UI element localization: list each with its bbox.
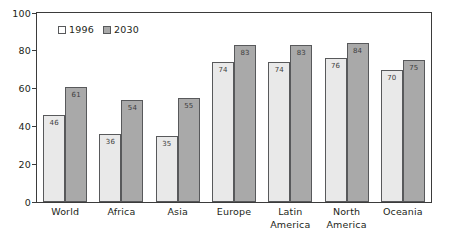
bar-value-label: 55 [179, 102, 199, 110]
bar-value-label: 83 [291, 49, 311, 57]
x-axis-label: Oceania [375, 205, 431, 218]
y-axis-tick-label: 100 [12, 8, 36, 20]
bar-value-label: 54 [122, 104, 142, 112]
legend-item-2030[interactable]: 2030 [103, 25, 139, 35]
bar-value-label: 36 [100, 138, 120, 146]
chart-legend: 19962030 [58, 25, 139, 35]
x-axis-label-line: America [262, 218, 318, 231]
x-axis-label-line: World [37, 205, 93, 218]
bar-value-label: 74 [213, 66, 233, 74]
y-axis-tick-mark [32, 13, 36, 14]
bar-1996: 46 [43, 115, 65, 202]
x-axis-label-line: Europe [206, 205, 262, 218]
bar-value-label: 76 [326, 62, 346, 70]
bar-chart: 100806040200 466136543555748374837684707… [0, 0, 452, 249]
x-axis-label: Asia [150, 205, 206, 218]
x-axis-label: NorthAmerica [319, 205, 375, 231]
x-axis: WorldAfricaAsiaEuropeLatinAmericaNorthAm… [37, 205, 431, 245]
bar-2030: 83 [290, 45, 312, 202]
bar-group: 7684 [325, 13, 369, 202]
y-axis-tick-label: 80 [19, 45, 37, 57]
bar-group: 7075 [381, 13, 425, 202]
bar-2030: 61 [65, 87, 87, 202]
y-axis-tick-label: 60 [19, 83, 37, 95]
bar-value-label: 70 [382, 74, 402, 82]
x-axis-label: LatinAmerica [262, 205, 318, 231]
x-axis-label-line: North [319, 205, 375, 218]
bar-value-label: 75 [404, 64, 424, 72]
bar-groups: 4661365435557483748376847075 [37, 13, 431, 202]
bar-1996: 70 [381, 70, 403, 202]
x-axis-label: World [37, 205, 93, 218]
bar-value-label: 35 [157, 140, 177, 148]
y-axis-tick: 0 [25, 196, 36, 208]
x-axis-label-line: Asia [150, 205, 206, 218]
bar-value-label: 74 [269, 66, 289, 74]
y-axis-tick-mark [32, 164, 36, 165]
bar-group: 7483 [212, 13, 256, 202]
legend-label: 2030 [114, 25, 139, 35]
y-axis-tick-label: 40 [19, 121, 37, 133]
bar-group: 3654 [99, 13, 143, 202]
bar-2030: 84 [347, 43, 369, 202]
x-axis-label: Africa [93, 205, 149, 218]
y-axis-tick-label: 0 [25, 197, 36, 209]
bar-group: 3555 [156, 13, 200, 202]
bar-value-label: 61 [66, 91, 86, 99]
legend-swatch-icon [103, 26, 111, 34]
bar-value-label: 84 [348, 47, 368, 55]
y-axis: 100806040200 [0, 12, 36, 203]
bar-2030: 54 [121, 100, 143, 202]
legend-label: 1996 [69, 25, 94, 35]
legend-item-1996[interactable]: 1996 [58, 25, 94, 35]
y-axis-tick-mark [32, 126, 36, 127]
y-axis-tick-mark [32, 202, 36, 203]
y-axis-tick: 60 [19, 83, 37, 95]
y-axis-tick-mark [32, 88, 36, 89]
plot-area: 4661365435557483748376847075 [37, 13, 431, 202]
y-axis-tick: 20 [19, 158, 37, 170]
legend-swatch-icon [58, 26, 66, 34]
bar-1996: 35 [156, 136, 178, 202]
bar-group: 7483 [268, 13, 312, 202]
bar-value-label: 46 [44, 119, 64, 127]
bar-2030: 75 [403, 60, 425, 202]
y-axis-tick: 40 [19, 120, 37, 132]
bar-2030: 55 [178, 98, 200, 202]
bar-1996: 74 [268, 62, 290, 202]
x-axis-label-line: America [319, 218, 375, 231]
y-axis-tick-mark [32, 50, 36, 51]
x-axis-label-line: Africa [93, 205, 149, 218]
bar-1996: 36 [99, 134, 121, 202]
bar-2030: 83 [234, 45, 256, 202]
bar-1996: 76 [325, 58, 347, 202]
x-axis-label-line: Latin [262, 205, 318, 218]
bar-value-label: 83 [235, 49, 255, 57]
x-axis-label-line: Oceania [375, 205, 431, 218]
bar-1996: 74 [212, 62, 234, 202]
y-axis-tick-label: 20 [19, 159, 37, 171]
y-axis-tick: 100 [12, 7, 36, 19]
x-axis-label: Europe [206, 205, 262, 218]
y-axis-tick: 80 [19, 45, 37, 57]
bar-group: 4661 [43, 13, 87, 202]
